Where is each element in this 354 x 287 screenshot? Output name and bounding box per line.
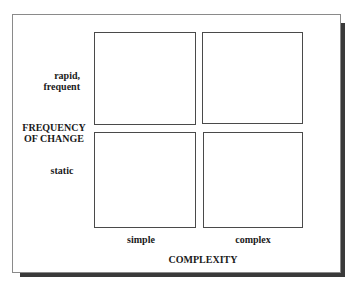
row-label-static: static (40, 165, 84, 176)
col-label-simple: simple (116, 234, 166, 245)
cell-static-simple (94, 132, 196, 228)
cell-rapid-complex (202, 32, 303, 124)
frame-shadow-right (341, 23, 345, 277)
row-label-rapid: rapid, (30, 70, 80, 81)
x-axis-title: COMPLEXITY (160, 254, 246, 265)
row-label-frequent: frequent (30, 81, 80, 92)
row-label-static-text: static (40, 165, 84, 176)
y-axis-title-line1: FREQUENCY (20, 122, 88, 133)
y-axis-title-line2: OF CHANGE (20, 133, 88, 144)
row-label-rapid-frequent: rapid, frequent (30, 70, 80, 92)
cell-rapid-simple (94, 32, 196, 125)
cell-static-complex (203, 132, 303, 228)
y-axis-title: FREQUENCY OF CHANGE (20, 122, 88, 144)
frame-shadow-bottom (20, 273, 345, 277)
col-label-complex: complex (225, 234, 281, 245)
